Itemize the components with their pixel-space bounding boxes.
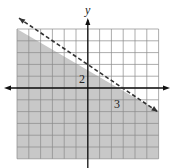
x-intercept-label: 3 — [114, 98, 120, 110]
y-intercept-label: 2 — [79, 73, 85, 85]
inequality-graph — [0, 0, 175, 168]
y-axis-label: y — [85, 4, 90, 16]
